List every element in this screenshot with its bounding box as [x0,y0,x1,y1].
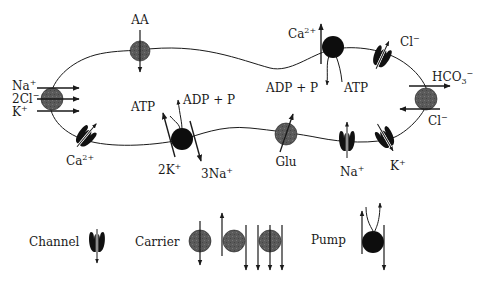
cl-channel-top [369,38,396,72]
na-channel [339,122,355,158]
legend: Channel Carrier Pump [29,203,384,270]
na-channel-label: Na+ [340,164,364,179]
atp-label-2: ATP [130,100,155,114]
legend-carrier-antiport-icon [222,213,246,270]
aa-label: AA [130,13,149,27]
na-k-atpase-pump: ATP ADP + P 2K+ 3Na+ [130,93,235,181]
hco3-label: HCO3− [432,69,473,86]
glu-label: Glu [275,155,296,169]
membrane-transport-diagram: AA Ca2+ ADP + P ATP Cl− Na+ 2Cl− K+ HCO3… [0,0,484,283]
adp-p-label-2: ADP + P [182,93,235,107]
cl-right-label: Cl− [428,113,448,128]
k-channel-label: K+ [390,158,406,173]
cell-membrane [50,48,428,146]
nkcc-carrier: Na+ 2Cl− K+ [12,78,79,119]
glu-carrier: Glu [275,114,297,169]
k-label: K+ [12,104,28,119]
hco3-cl-exchanger: HCO3− Cl− [400,69,473,128]
legend-carrier-uniport-icon [189,221,211,265]
3na-label: 3Na+ [201,166,233,181]
ca-channel [71,119,102,152]
legend-channel-icon [89,229,105,263]
ca-atpase-pump: Ca2+ ADP + P ATP [265,24,368,95]
aa-carrier: AA [130,13,150,72]
k-channel [371,120,400,155]
adp-p-label: ADP + P [265,81,318,95]
legend-channel-label: Channel [29,235,80,249]
legend-carrier-label: Carrier [135,235,180,249]
atp-label: ATP [343,81,368,95]
legend-pump-label: Pump [311,233,346,247]
cl-top-label: Cl− [400,34,420,49]
ca-label: Ca2+ [288,26,316,41]
ca-channel-label: Ca2+ [66,153,94,168]
legend-pump-icon [362,203,384,270]
2k-label: 2K+ [158,162,181,177]
legend-carrier-symport-icon [258,225,282,270]
